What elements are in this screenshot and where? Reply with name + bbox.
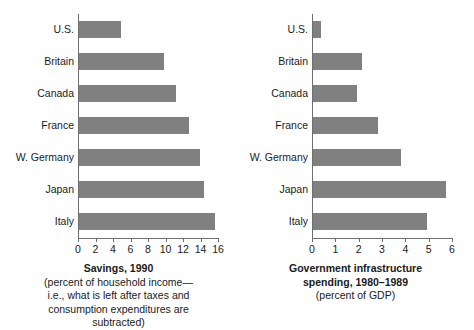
bar-row: Japan (313, 174, 452, 206)
x-tick-label: 12 (177, 243, 189, 255)
x-tick-label: 0 (75, 243, 81, 255)
category-label-france: France (275, 117, 308, 134)
bar (313, 213, 427, 230)
x-axis-infrastructure: 0123456 (312, 238, 452, 260)
bar (79, 21, 121, 38)
category-label-italy: Italy (289, 213, 308, 230)
x-tick-label: 2 (356, 243, 362, 255)
bar-row: France (79, 110, 218, 142)
category-label-u-s: U.S. (288, 21, 308, 38)
bar (313, 117, 378, 134)
bar (79, 53, 164, 70)
bar-row: W. Germany (313, 142, 452, 174)
x-tick-label: 16 (212, 243, 224, 255)
caption-title-line-2: spending, 1980–1989 (251, 276, 460, 290)
x-tick-label: 8 (145, 243, 151, 255)
category-label-japan: Japan (279, 181, 308, 198)
x-tick (78, 238, 79, 242)
caption-subtitle-line-3: consumption expenditures are (16, 303, 221, 317)
bar (313, 85, 357, 102)
bar (313, 149, 401, 166)
bar (313, 21, 321, 38)
x-tick (166, 238, 167, 242)
x-tick-label: 6 (128, 243, 134, 255)
x-tick (96, 238, 97, 242)
category-label-w-germany: W. Germany (16, 149, 74, 166)
x-tick-label: 2 (93, 243, 99, 255)
bar-row: Japan (79, 174, 218, 206)
x-tick-label: 1 (332, 243, 338, 255)
chart-panel-infrastructure: U.S.BritainCanadaFranceW. GermanyJapanIt… (237, 0, 474, 327)
x-tick (218, 238, 219, 242)
caption-subtitle-line-2: i.e., what is left after taxes and (16, 289, 221, 303)
bar (79, 117, 189, 134)
x-tick-label: 10 (160, 243, 172, 255)
plot-area-infrastructure: U.S.BritainCanadaFranceW. GermanyJapanIt… (312, 14, 452, 238)
chart-panel-savings: U.S.BritainCanadaFranceW. GermanyJapanIt… (0, 0, 237, 327)
x-tick (359, 238, 360, 242)
x-tick (183, 238, 184, 242)
x-tick (113, 238, 114, 242)
bar (79, 213, 215, 230)
x-tick (429, 238, 430, 242)
x-tick-label: 6 (449, 243, 455, 255)
bar (79, 85, 176, 102)
category-label-italy: Italy (55, 213, 74, 230)
bar-row: U.S. (313, 14, 452, 46)
x-tick-label: 5 (426, 243, 432, 255)
bar-series-savings: U.S.BritainCanadaFranceW. GermanyJapanIt… (79, 14, 218, 238)
bar (79, 149, 200, 166)
caption-subtitle-line-1: (percent of GDP) (251, 289, 460, 303)
caption-title: Savings, 1990 (16, 262, 221, 276)
category-label-canada: Canada (37, 85, 74, 102)
plot-area-savings: U.S.BritainCanadaFranceW. GermanyJapanIt… (78, 14, 218, 238)
bar (313, 53, 362, 70)
x-tick (405, 238, 406, 242)
caption-subtitle-line-1: (percent of household income— (16, 276, 221, 290)
bar-row: France (313, 110, 452, 142)
bar-row: U.S. (79, 14, 218, 46)
bar-row: Italy (79, 206, 218, 238)
category-label-france: France (41, 117, 74, 134)
bar (313, 181, 446, 198)
category-label-britain: Britain (278, 53, 308, 70)
x-tick (312, 238, 313, 242)
x-tick-label: 4 (110, 243, 116, 255)
x-axis-savings: 0246810121416 (78, 238, 218, 260)
x-tick (335, 238, 336, 242)
x-tick (452, 238, 453, 242)
x-tick-label: 14 (195, 243, 207, 255)
category-label-japan: Japan (45, 181, 74, 198)
x-tick-label: 3 (379, 243, 385, 255)
caption-subtitle-line-4: subtracted) (16, 316, 221, 330)
bar-row: Italy (313, 206, 452, 238)
bar-series-infrastructure: U.S.BritainCanadaFranceW. GermanyJapanIt… (313, 14, 452, 238)
bar (79, 181, 204, 198)
x-tick-label: 0 (309, 243, 315, 255)
x-tick (201, 238, 202, 242)
bar-row: W. Germany (79, 142, 218, 174)
bar-row: Canada (313, 78, 452, 110)
x-tick (148, 238, 149, 242)
x-tick (131, 238, 132, 242)
category-label-u-s: U.S. (54, 21, 74, 38)
bar-row: Britain (313, 46, 452, 78)
x-tick (382, 238, 383, 242)
category-label-britain: Britain (44, 53, 74, 70)
caption-infrastructure: Government infrastructure spending, 1980… (237, 262, 474, 303)
category-label-w-germany: W. Germany (250, 149, 308, 166)
caption-title: Government infrastructure (251, 262, 460, 276)
bar-row: Canada (79, 78, 218, 110)
bar-row: Britain (79, 46, 218, 78)
caption-savings: Savings, 1990 (percent of household inco… (0, 262, 237, 330)
category-label-canada: Canada (271, 85, 308, 102)
x-tick-label: 4 (402, 243, 408, 255)
